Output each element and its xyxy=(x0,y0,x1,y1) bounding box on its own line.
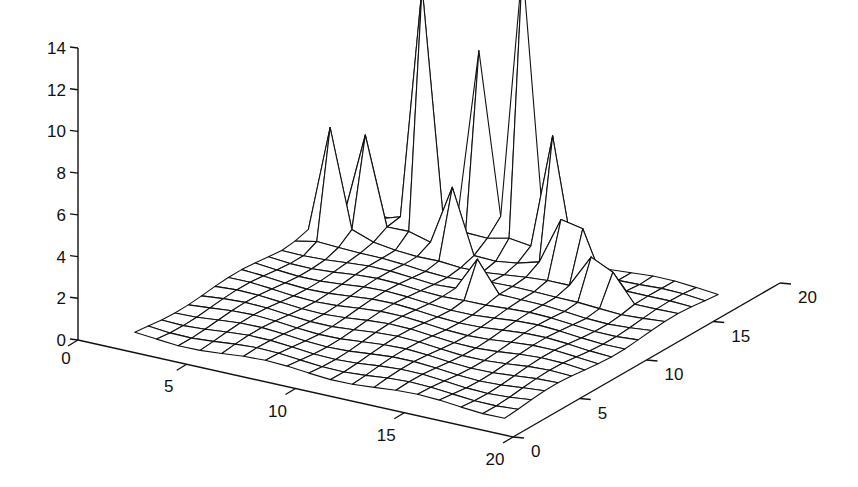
z-tick-label: 0 xyxy=(57,331,66,350)
z-tick-label: 4 xyxy=(57,248,66,267)
z-tick-label: 2 xyxy=(57,289,66,308)
z-tick xyxy=(70,297,78,298)
z-tick xyxy=(70,214,78,215)
z-tick xyxy=(70,47,78,48)
x-tick xyxy=(394,413,404,419)
x-tick-label: 20 xyxy=(486,450,505,469)
z-tick xyxy=(70,89,78,90)
z-tick-label: 10 xyxy=(47,122,66,141)
x-tick-label: 0 xyxy=(61,349,70,368)
z-tick-label: 6 xyxy=(57,206,66,225)
y-tick-label: 15 xyxy=(731,327,750,346)
z-tick-label: 8 xyxy=(57,164,66,183)
y-tick xyxy=(780,283,791,284)
y-tick xyxy=(580,399,591,400)
x-tick-label: 15 xyxy=(377,426,396,445)
y-tick-label: 20 xyxy=(798,288,817,307)
x-tick xyxy=(68,340,78,346)
z-tick-label: 14 xyxy=(47,39,66,58)
surface-mesh xyxy=(135,0,718,418)
x-tick xyxy=(503,437,513,443)
z-tick-label: 12 xyxy=(47,81,66,100)
y-tick xyxy=(713,322,724,323)
x-tick-label: 10 xyxy=(268,402,287,421)
z-tick xyxy=(70,339,78,340)
x-tick xyxy=(286,389,296,395)
z-tick xyxy=(70,130,78,131)
z-tick xyxy=(70,172,78,173)
y-tick xyxy=(647,360,658,361)
mesh-cell xyxy=(352,135,387,242)
x-tick-label: 5 xyxy=(164,377,173,396)
x-tick xyxy=(177,364,187,370)
y-tick-label: 5 xyxy=(598,404,607,423)
surface-plot: 024681012140510152005101520 xyxy=(0,0,858,487)
y-tick xyxy=(513,437,524,438)
y-tick-label: 0 xyxy=(531,442,540,461)
y-tick-label: 10 xyxy=(665,365,684,384)
z-tick xyxy=(70,256,78,257)
